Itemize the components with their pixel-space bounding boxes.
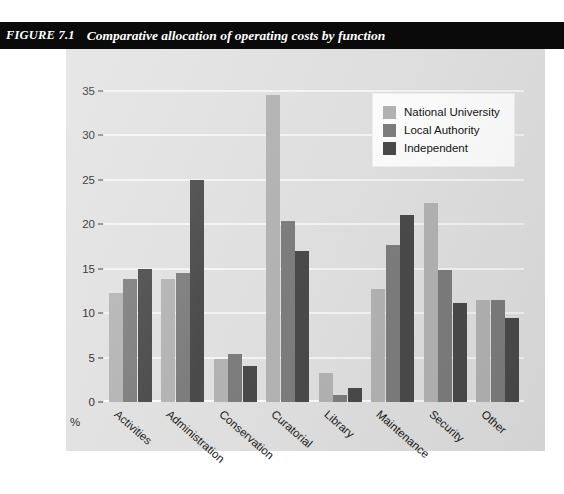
y-tick-mark	[98, 90, 103, 92]
bar	[138, 269, 152, 402]
legend-color-swatch	[383, 106, 396, 119]
y-tick-mark	[98, 401, 103, 403]
y-tick-label: 25	[82, 174, 95, 186]
y-tick-label: 10	[82, 307, 95, 319]
bar	[400, 215, 414, 402]
legend-label: Local Authority	[404, 124, 479, 136]
bar	[453, 303, 467, 402]
bar	[319, 373, 333, 402]
figure-number: FIGURE 7.1	[0, 28, 75, 43]
y-tick-label: 0	[89, 396, 95, 408]
legend-color-swatch	[383, 142, 396, 155]
bar	[438, 270, 452, 402]
y-tick-mark	[98, 134, 103, 136]
legend-color-swatch	[383, 124, 396, 137]
x-tick-label: Maintenance	[374, 408, 432, 460]
y-tick-label: 30	[82, 129, 95, 141]
bar	[424, 203, 438, 402]
bar	[295, 251, 309, 402]
x-tick-label: Conservation	[217, 408, 276, 462]
y-tick-mark	[98, 357, 103, 359]
legend-item: Local Authority	[383, 121, 500, 139]
y-tick-label: 5	[89, 352, 95, 364]
y-tick-mark	[98, 312, 103, 314]
bar	[266, 95, 280, 402]
legend-item: Independent	[383, 139, 500, 157]
y-tick-label: 35	[82, 85, 95, 97]
y-tick-label: 15	[82, 263, 95, 275]
y-tick-label: 20	[82, 218, 95, 230]
bar	[123, 279, 137, 403]
bar	[371, 289, 385, 402]
chart-panel: 05101520253035 ActivitiesAdministrationC…	[66, 49, 545, 451]
bar	[161, 279, 175, 402]
bar	[333, 395, 347, 402]
bar	[386, 245, 400, 402]
bar	[190, 180, 204, 402]
x-tick-label: Other	[479, 408, 509, 436]
y-tick-mark	[98, 179, 103, 181]
legend-label: National University	[404, 106, 500, 118]
bar	[281, 221, 295, 402]
y-tick-mark	[98, 268, 103, 270]
bar	[476, 300, 490, 402]
legend-label: Independent	[404, 142, 468, 154]
bar	[176, 273, 190, 402]
bar	[348, 388, 362, 402]
bar	[491, 300, 505, 402]
y-axis-unit-label: %	[70, 416, 80, 428]
chart-legend: National UniversityLocal AuthorityIndepe…	[372, 93, 515, 167]
bar	[243, 366, 257, 402]
x-tick-label: Curatorial	[269, 408, 315, 450]
bar	[228, 354, 242, 402]
legend-item: National University	[383, 103, 500, 121]
x-tick-label: Library	[322, 408, 356, 440]
x-tick-label: Activities	[112, 408, 154, 447]
x-tick-label: Security	[427, 408, 466, 444]
bar	[505, 318, 519, 402]
y-tick-mark	[98, 223, 103, 225]
bar	[214, 359, 228, 402]
figure-caption-bar: FIGURE 7.1 Comparative allocation of ope…	[0, 22, 564, 49]
figure-title: Comparative allocation of operating cost…	[75, 28, 386, 44]
bar	[109, 293, 123, 402]
